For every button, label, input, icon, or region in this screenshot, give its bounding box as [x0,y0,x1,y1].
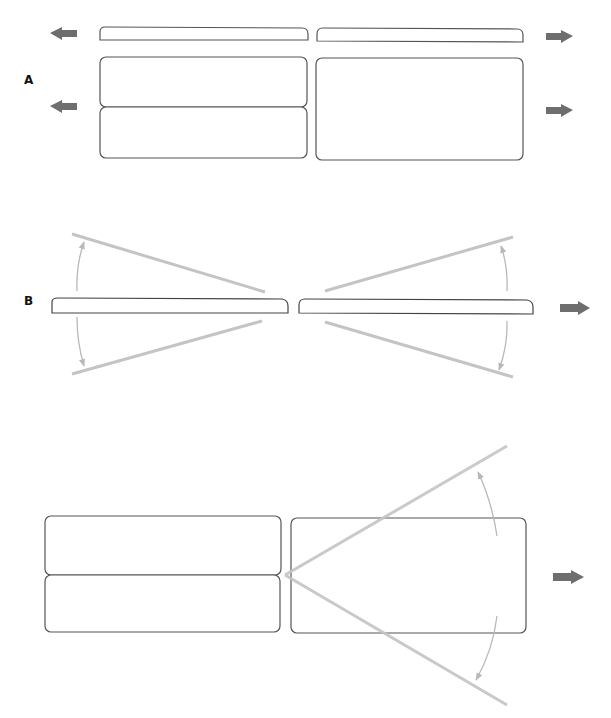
left-lower-box [100,107,307,158]
left-lower-box [45,575,280,632]
arrow-right-icon [560,301,590,315]
arrow-right-icon [553,570,584,584]
panel-a [100,27,523,160]
diagram-canvas [0,0,611,718]
top-right-bar [317,28,523,42]
left-upper-box [45,516,281,575]
panel-b [52,298,533,314]
top-left-bar [100,27,308,40]
arrow-left-icon [50,27,77,40]
left-bar [52,298,288,313]
right-box [291,518,526,633]
right-bar [299,299,533,314]
left-upper-box [100,57,307,107]
arrow-right-icon [546,30,573,43]
arrow-left-icon [50,100,77,113]
right-box [316,58,523,160]
arrow-right-icon [546,104,573,117]
